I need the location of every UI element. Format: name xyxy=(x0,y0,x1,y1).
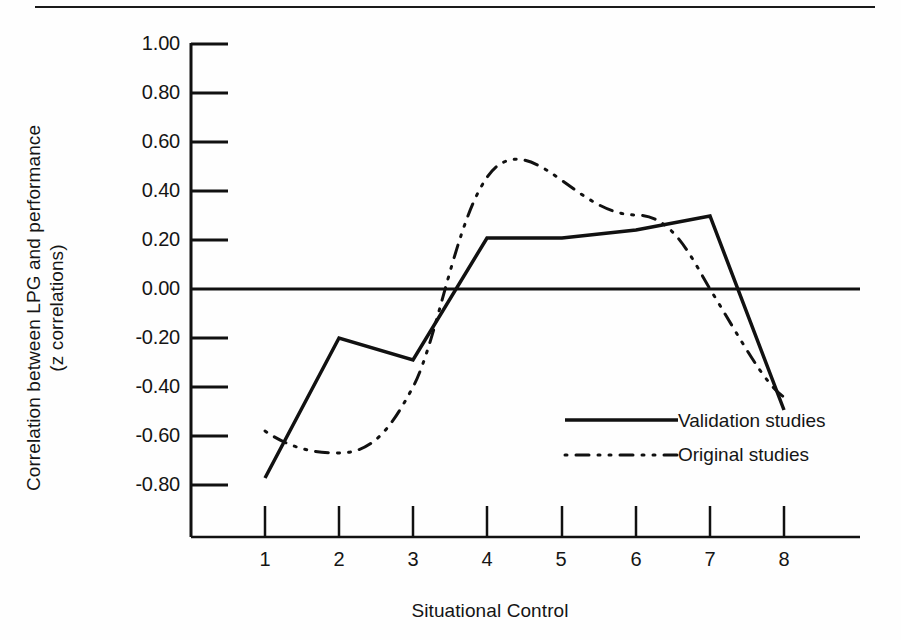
plot-area xyxy=(0,0,901,640)
legend-item-validation-studies: Validation studies xyxy=(560,404,826,438)
legend-label: Original studies xyxy=(678,444,809,466)
chart-figure: Correlation between LPG and performance … xyxy=(0,0,901,640)
y-tick-marks xyxy=(191,44,228,485)
chart-legend: Validation studies Original studies xyxy=(560,404,826,472)
legend-item-original-studies: Original studies xyxy=(560,438,826,472)
page-canvas: Correlation between LPG and performance … xyxy=(0,0,901,640)
x-tick-marks xyxy=(265,506,784,537)
x-axis-label: Situational Control xyxy=(190,600,790,622)
legend-label: Validation studies xyxy=(678,410,826,432)
